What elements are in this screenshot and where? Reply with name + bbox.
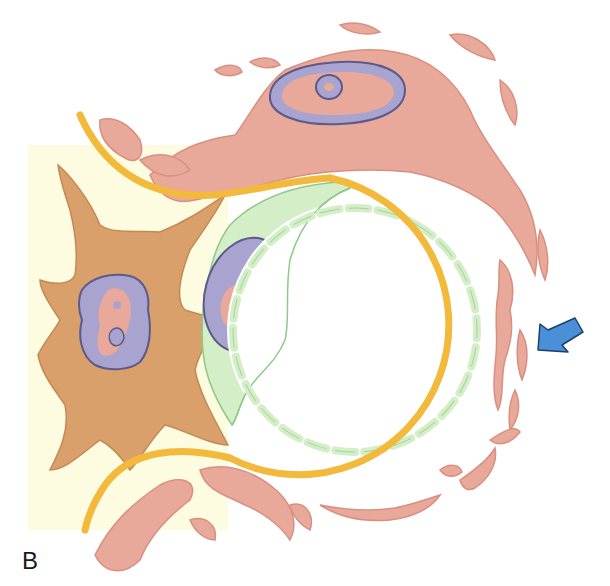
- capillary-lumen: [227, 202, 483, 458]
- panel-label: B: [22, 547, 38, 575]
- pericyte-nucleus: [79, 275, 150, 370]
- top-nucleus: [270, 62, 405, 124]
- capillary-illustration: [0, 0, 610, 586]
- blue-arrow-icon[interactable]: [538, 318, 583, 352]
- figure-canvas: B: [0, 0, 610, 586]
